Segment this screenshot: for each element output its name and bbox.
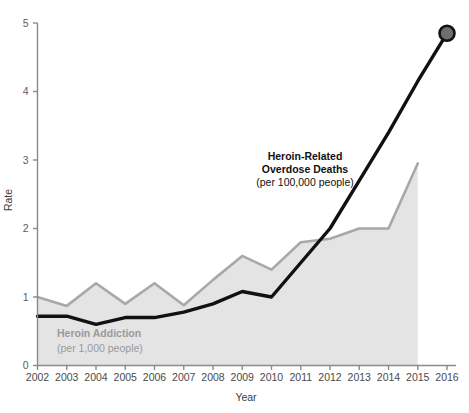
y-tick-label-3: 3 [23, 154, 29, 166]
y-tick-label-5: 5 [23, 17, 29, 29]
addiction-annotation-line1: Heroin Addiction [57, 327, 141, 339]
overdose-annotation-line2: Overdose Deaths [262, 163, 349, 175]
chart-container: 012345 200220032004200520062007200820092… [0, 0, 469, 413]
x-tick-label-2009: 2009 [231, 371, 255, 383]
heroin-rate-chart: 012345 200220032004200520062007200820092… [0, 0, 469, 413]
x-tick-label-2008: 2008 [201, 371, 225, 383]
y-tick-label-4: 4 [23, 85, 29, 97]
addiction-annotation-line2: (per 1,000 people) [57, 342, 143, 354]
endpoint-marker-2016 [440, 26, 455, 41]
x-tick-label-2006: 2006 [143, 371, 167, 383]
overdose-deaths-annotation: Heroin-Related Overdose Deaths (per 100,… [256, 150, 354, 188]
x-tick-label-2015: 2015 [406, 371, 430, 383]
x-axis-title: Year [235, 391, 257, 403]
x-tick-label-2003: 2003 [55, 371, 79, 383]
overdose-annotation-line3: (per 100,000 people) [256, 176, 354, 188]
x-tick-label-2010: 2010 [260, 371, 284, 383]
x-tick-label-2013: 2013 [348, 371, 372, 383]
x-tick-label-2011: 2011 [289, 371, 312, 383]
x-tick-label-2014: 2014 [377, 371, 401, 383]
x-tick-label-2012: 2012 [318, 371, 342, 383]
x-tick-label-2016: 2016 [435, 371, 459, 383]
y-tick-label-1: 1 [23, 291, 29, 303]
x-axis-tick-labels: 2002200320042005200620072008200920102011… [26, 371, 459, 383]
x-tick-label-2007: 2007 [172, 371, 196, 383]
x-tick-label-2005: 2005 [114, 371, 138, 383]
y-tick-label-0: 0 [23, 359, 29, 371]
x-tick-label-2002: 2002 [26, 371, 50, 383]
y-axis-title: Rate [2, 189, 14, 211]
x-tick-label-2004: 2004 [84, 371, 108, 383]
y-tick-label-2: 2 [23, 222, 29, 234]
overdose-annotation-line1: Heroin-Related [268, 150, 343, 162]
